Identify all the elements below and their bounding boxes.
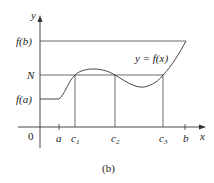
function-curve xyxy=(40,41,186,99)
curve-label: y = f(x) xyxy=(134,52,168,65)
x-axis-arrow-icon xyxy=(199,125,206,130)
c1-label: c1 xyxy=(71,132,79,146)
fb-label: f(b) xyxy=(16,35,32,48)
n-label: N xyxy=(26,69,35,81)
y-axis-arrow-icon xyxy=(38,15,43,22)
a-label: a xyxy=(56,132,62,144)
x-axis-label: x xyxy=(199,130,205,142)
fa-label: f(a) xyxy=(16,93,32,106)
c3-label: c3 xyxy=(159,132,168,146)
origin-label: 0 xyxy=(28,130,34,142)
y-axis-label: y xyxy=(30,9,36,21)
b-label: b xyxy=(183,132,189,144)
caption: (b) xyxy=(102,162,115,175)
ivt-diagram: f(b) N f(a) y 0 a c1 c2 c3 b x y = f(x) … xyxy=(0,0,214,183)
c2-label: c2 xyxy=(111,132,120,146)
